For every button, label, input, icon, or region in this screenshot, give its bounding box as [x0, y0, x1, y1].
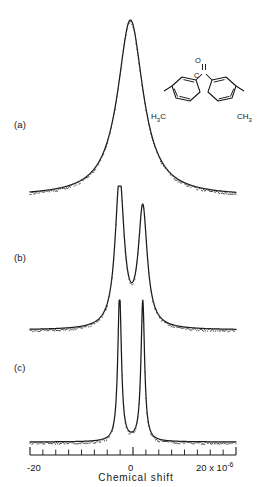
data-point — [183, 443, 184, 444]
data-point — [90, 173, 91, 174]
data-point — [77, 181, 78, 182]
data-point — [100, 160, 101, 161]
data-point — [101, 315, 102, 316]
carbonyl-carbon-label: C — [194, 71, 199, 80]
data-point — [44, 191, 45, 192]
data-point — [208, 189, 209, 190]
data-point — [134, 33, 135, 34]
data-point — [53, 190, 54, 191]
data-point — [196, 188, 197, 189]
data-point — [102, 439, 103, 440]
data-point — [224, 443, 225, 444]
data-point — [127, 273, 128, 274]
data-point — [130, 282, 131, 283]
data-point — [75, 185, 76, 186]
data-point — [189, 185, 190, 186]
data-point — [139, 387, 140, 388]
data-point — [150, 433, 151, 434]
data-point — [146, 113, 147, 114]
data-point — [122, 58, 123, 59]
data-point — [58, 189, 59, 190]
data-point — [138, 63, 139, 64]
data-point — [35, 330, 36, 331]
data-point — [226, 193, 227, 194]
data-point — [75, 183, 76, 184]
data-point — [88, 176, 89, 177]
data-point — [149, 428, 150, 429]
data-point — [143, 323, 144, 324]
data-point — [82, 180, 83, 181]
data-point — [224, 193, 225, 194]
data-point — [115, 109, 116, 110]
data-point — [157, 312, 158, 313]
data-point — [209, 328, 210, 329]
data-point — [182, 442, 183, 443]
data-point — [61, 187, 62, 188]
data-point — [125, 422, 126, 423]
data-point — [156, 151, 157, 152]
data-point — [106, 440, 107, 441]
data-point — [87, 324, 88, 325]
data-point — [94, 323, 95, 324]
data-point — [193, 186, 194, 187]
data-point — [129, 433, 130, 434]
data-point — [137, 416, 138, 417]
data-point — [124, 45, 125, 46]
data-point — [198, 330, 199, 331]
data-point — [93, 172, 94, 173]
data-point — [222, 192, 223, 193]
data-point — [122, 375, 123, 376]
data-point — [204, 444, 205, 445]
data-point — [144, 372, 145, 373]
data-point — [136, 423, 137, 424]
data-point — [64, 188, 65, 189]
data-point — [38, 193, 39, 194]
data-point — [201, 329, 202, 330]
data-point — [162, 163, 163, 164]
data-point — [156, 439, 157, 440]
data-point — [111, 281, 112, 282]
data-point — [178, 181, 179, 182]
methyl-group-right-label: CH3 — [237, 112, 252, 123]
data-point — [151, 294, 152, 295]
data-point — [163, 165, 164, 166]
data-point — [167, 323, 168, 324]
data-point — [145, 230, 146, 231]
data-point — [142, 204, 143, 205]
data-point — [83, 325, 84, 326]
data-point — [135, 43, 136, 44]
panel-label-a: (a) — [14, 119, 26, 130]
data-point — [203, 189, 204, 190]
data-point — [36, 192, 37, 193]
data-point — [140, 220, 141, 221]
data-point — [106, 308, 107, 309]
data-point — [169, 172, 170, 173]
data-point — [100, 441, 101, 442]
data-point — [113, 265, 114, 266]
data-point — [213, 441, 214, 442]
data-point — [112, 430, 113, 431]
data-point — [171, 326, 172, 327]
data-point — [93, 322, 94, 323]
data-point — [219, 193, 220, 194]
data-point — [143, 96, 144, 97]
data-point — [142, 90, 143, 91]
data-point — [123, 51, 124, 52]
curve-b — [30, 186, 236, 329]
data-point — [57, 443, 58, 444]
data-point — [206, 441, 207, 442]
data-point — [195, 186, 196, 187]
data-point — [114, 418, 115, 419]
data-point — [184, 442, 185, 443]
data-point — [95, 169, 96, 170]
data-point — [69, 330, 70, 331]
data-point — [214, 328, 215, 329]
data-point — [150, 133, 151, 134]
data-point — [87, 443, 88, 444]
data-point — [90, 326, 91, 327]
data-point — [54, 330, 55, 331]
data-point — [118, 88, 119, 89]
panel-c-trace — [29, 300, 236, 445]
data-point — [184, 327, 185, 328]
data-point — [121, 348, 122, 349]
